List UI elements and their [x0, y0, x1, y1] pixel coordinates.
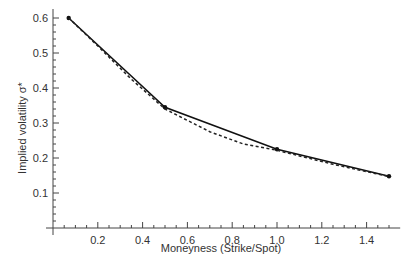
- y-tick-label: 0.4: [33, 82, 48, 94]
- y-tick-label: 0.2: [33, 152, 48, 164]
- x-tick-label: 0.4: [135, 234, 150, 246]
- fitted-curve: [69, 18, 389, 177]
- market-curve: [69, 18, 389, 176]
- y-tick-label: 0.5: [33, 47, 48, 59]
- y-axis-label: Implied volatility σ*: [16, 81, 28, 173]
- y-tick-label: 0.3: [33, 117, 48, 129]
- x-tick-label: 1.4: [359, 234, 374, 246]
- implied-volatility-chart: 0.20.40.60.81.01.21.40.10.20.30.40.50.6 …: [0, 0, 411, 271]
- x-tick-label: 0.2: [90, 234, 105, 246]
- axes: 0.20.40.60.81.01.21.40.10.20.30.40.50.6: [33, 9, 400, 246]
- series: [66, 16, 391, 179]
- y-tick-label: 0.6: [33, 12, 48, 24]
- y-tick-label: 0.1: [33, 187, 48, 199]
- x-tick-label: 1.2: [314, 234, 329, 246]
- x-axis-label: Moneyness (Strike/Spot): [161, 242, 281, 254]
- data-point: [387, 174, 391, 178]
